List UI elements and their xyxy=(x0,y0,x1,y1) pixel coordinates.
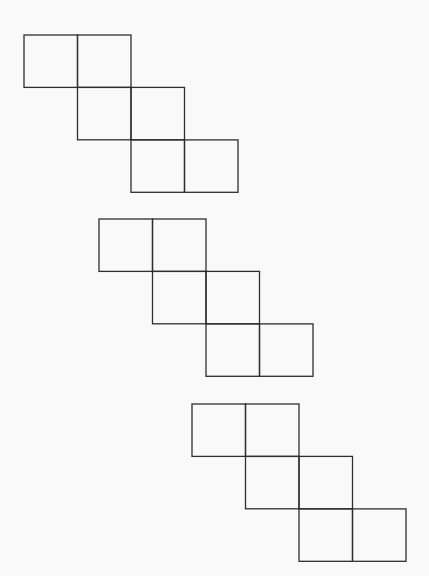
net-square xyxy=(99,219,153,271)
net-square xyxy=(131,87,185,139)
net-square xyxy=(353,509,407,561)
net-square xyxy=(246,404,300,456)
net-square xyxy=(206,324,260,376)
net-square xyxy=(299,509,353,561)
net-square xyxy=(131,140,185,192)
net-square xyxy=(246,456,300,508)
net-2 xyxy=(99,219,313,376)
net-square xyxy=(153,219,207,271)
net-square xyxy=(185,140,239,192)
net-square xyxy=(78,35,132,87)
diagram-canvas xyxy=(0,0,429,576)
net-square xyxy=(153,271,207,323)
net-square xyxy=(192,404,246,456)
net-square xyxy=(24,35,78,87)
net-square xyxy=(260,324,314,376)
net-square xyxy=(299,456,353,508)
net-1 xyxy=(24,35,238,192)
net-3 xyxy=(192,404,406,561)
net-square xyxy=(206,271,260,323)
cube-nets-diagram xyxy=(0,0,429,576)
net-square xyxy=(78,87,132,139)
